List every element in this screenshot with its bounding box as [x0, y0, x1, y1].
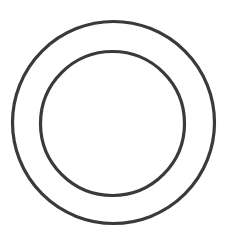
concentric-circles-diagram [0, 0, 230, 239]
background [0, 0, 230, 239]
